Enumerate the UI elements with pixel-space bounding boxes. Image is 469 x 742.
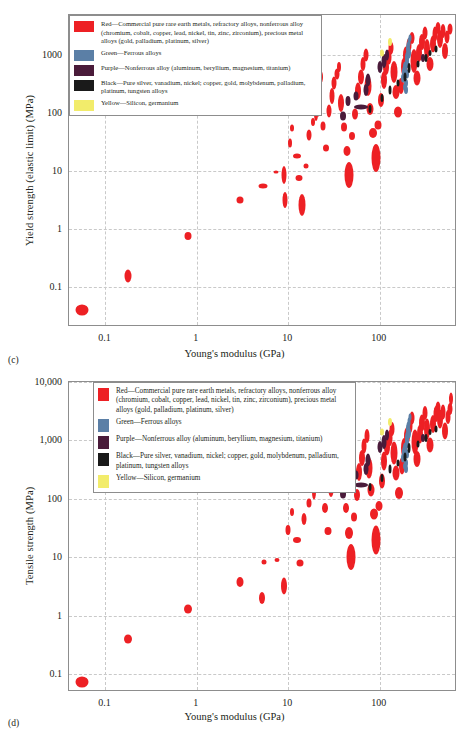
data-point: [290, 508, 294, 516]
x-axis-tick: [284, 690, 285, 691]
legend-label: Purple—Nonferrous alloy (aluminum, beryl…: [101, 64, 290, 73]
y-axis-tick: [68, 639, 69, 640]
y-axis-tick: [68, 458, 69, 459]
legend-row: Purple—Nonferrous alloy (aluminum, beryl…: [74, 64, 316, 76]
y-axis-tick: [68, 395, 69, 396]
legend-row: Purple—Nonferrous alloy (aluminum, beryl…: [98, 435, 350, 449]
y-axis-tick: [68, 388, 69, 389]
data-point: [259, 184, 268, 189]
x-axis-tick: [371, 325, 372, 326]
panel-d-ylabel: Tensile strength (MPa): [24, 487, 35, 585]
y-axis-tick: [68, 499, 69, 500]
y-axis-tick: [68, 440, 69, 441]
y-axis-tick: [68, 180, 69, 181]
panel-c-ylabel: Yield strength (elastic limit) (MPa): [24, 94, 35, 245]
data-point: [286, 525, 291, 535]
data-point: [184, 232, 191, 240]
x-axis-tick: [133, 690, 134, 691]
data-point: [124, 635, 132, 644]
y-axis-tick: [68, 471, 69, 472]
materials-property-figure: (c) Yield strength (elastic limit) (MPa)…: [0, 0, 469, 742]
data-point: [380, 474, 383, 482]
y-axis-tick: [68, 246, 69, 247]
x-axis-tick: [316, 690, 317, 691]
y-axis-tick: [68, 423, 69, 424]
data-point: [290, 125, 294, 132]
x-axis-tick: [407, 325, 408, 326]
x-axis-tick: [97, 690, 98, 691]
data-point: [274, 558, 279, 562]
y-axis-tick: [68, 211, 69, 212]
x-axis-tick: [261, 325, 262, 326]
y-axis-label: 0.1: [50, 280, 63, 291]
y-axis-tick: [68, 683, 69, 684]
data-point: [372, 525, 381, 554]
x-axis-tick: [407, 690, 408, 691]
data-point: [307, 499, 312, 508]
x-axis-tick: [261, 690, 262, 691]
gridline-horizontal: [69, 229, 455, 230]
x-axis-tick: [193, 690, 194, 691]
x-axis-tick: [78, 325, 79, 326]
y-axis-tick: [68, 400, 69, 401]
y-axis-label: 100: [47, 107, 62, 118]
data-point: [366, 73, 371, 86]
data-point: [288, 139, 292, 148]
y-axis-tick: [68, 560, 69, 561]
data-point: [403, 84, 407, 91]
x-axis-tick: [371, 690, 372, 691]
data-point: [298, 194, 305, 216]
y-axis-tick: [68, 570, 69, 571]
data-point: [368, 483, 371, 491]
data-point: [427, 437, 434, 452]
x-axis-tick: [188, 325, 189, 326]
panel-c: (c) Yield strength (elastic limit) (MPa)…: [0, 0, 469, 371]
y-axis-label: 10: [52, 165, 62, 176]
purple-swatch: [74, 65, 94, 76]
x-axis-tick: [279, 690, 280, 691]
green-swatch: [98, 419, 109, 432]
data-point: [354, 104, 368, 109]
y-axis-label: 1,000: [40, 434, 63, 445]
x-axis-tick: [197, 690, 198, 691]
data-point: [259, 592, 265, 604]
y-axis-tick: [68, 119, 69, 120]
y-axis-tick: [68, 229, 69, 230]
data-point: [297, 560, 304, 567]
data-point: [389, 86, 392, 95]
y-axis-tick: [68, 680, 69, 681]
data-point: [380, 94, 383, 102]
data-point: [295, 175, 302, 181]
gridline-horizontal: [69, 287, 455, 288]
gridline-horizontal: [69, 616, 455, 617]
data-point: [427, 57, 434, 71]
data-point: [408, 443, 411, 453]
y-axis-tick: [68, 566, 69, 567]
x-axis-tick: [423, 690, 424, 691]
data-point: [449, 392, 453, 405]
data-point: [385, 50, 389, 61]
data-point: [380, 428, 384, 435]
x-axis-tick: [183, 690, 184, 691]
panel-d: (d) Tensile strength (MPa) Young's modul…: [0, 371, 469, 742]
x-axis-tick: [69, 325, 70, 326]
y-axis-tick: [68, 557, 69, 558]
data-point: [366, 454, 371, 467]
data-point: [375, 121, 382, 130]
data-point: [351, 512, 357, 521]
y-axis-tick: [68, 622, 69, 623]
data-point: [184, 605, 192, 614]
y-axis-tick: [68, 292, 69, 293]
data-point: [404, 452, 407, 461]
data-point: [416, 440, 419, 447]
data-point: [324, 527, 331, 535]
legend-row: Red—Commercial pure rare earth metals, r…: [74, 20, 316, 46]
data-point: [321, 122, 326, 131]
legend-row: Red—Commercial pure rare earth metals, r…: [98, 387, 350, 415]
y-axis-tick: [68, 385, 69, 386]
yellow-swatch: [98, 475, 109, 488]
legend-row: Green—Ferrous alloys: [74, 49, 316, 61]
red-swatch: [98, 388, 109, 401]
data-point: [338, 94, 344, 112]
x-axis-tick: [332, 690, 333, 691]
